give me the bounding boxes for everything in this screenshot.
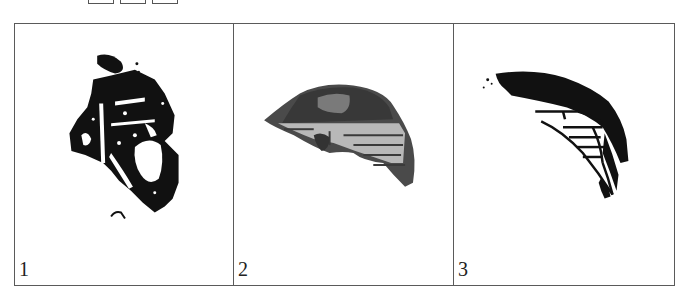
cropped-header-fragment	[70, 0, 178, 4]
panel-label-3: 3	[458, 259, 468, 279]
specimen-image-3	[454, 24, 674, 285]
specimen-image-2	[234, 24, 453, 285]
panel-1: 1	[15, 24, 233, 285]
panel-2: 2	[233, 24, 453, 285]
figure-frame: 1 2	[14, 23, 675, 286]
panel-3: 3	[453, 24, 674, 285]
cropped-box-3	[152, 0, 178, 4]
cropped-box-2	[120, 0, 146, 4]
cropped-box-1	[88, 0, 114, 4]
panel-label-2: 2	[238, 259, 248, 279]
specimen-image-1	[15, 24, 233, 285]
panel-label-1: 1	[19, 259, 29, 279]
